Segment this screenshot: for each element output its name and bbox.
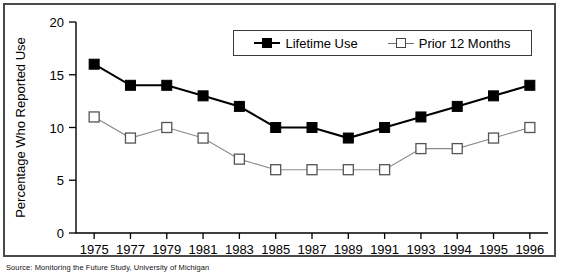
data-point-marker (416, 144, 426, 154)
y-tick-label: 0 (57, 226, 64, 241)
data-point-marker (525, 80, 535, 90)
data-point-marker (125, 133, 135, 143)
x-tick-label: 1989 (334, 242, 363, 255)
x-tick-label: 1996 (515, 242, 544, 255)
legend-item-prior-12-months: Prior 12 Months (388, 36, 511, 51)
data-point-marker (416, 112, 426, 122)
x-tick-label: 1995 (479, 242, 508, 255)
data-point-marker (343, 165, 353, 175)
data-point-marker (380, 165, 390, 175)
y-tick-label: 20 (50, 15, 64, 30)
chart-figure: 05101520Percentage Who Reported Use19751… (0, 0, 561, 277)
data-point-marker (489, 91, 499, 101)
data-point-marker (380, 123, 390, 133)
data-point-marker (489, 133, 499, 143)
x-tick-label: 1981 (189, 242, 218, 255)
y-tick-label: 15 (50, 68, 64, 83)
y-axis-label: Percentage Who Reported Use (13, 37, 28, 218)
legend-label-lifetime-use: Lifetime Use (285, 36, 357, 51)
data-point-marker (343, 133, 353, 143)
x-tick-label: 1985 (261, 242, 290, 255)
data-point-marker (271, 123, 281, 133)
x-tick-label: 1983 (225, 242, 254, 255)
legend-label-prior-12-months: Prior 12 Months (419, 36, 511, 51)
source-note: Source: Monitoring the Future Study, Uni… (6, 263, 209, 272)
data-point-marker (271, 165, 281, 175)
data-point-marker (89, 59, 99, 69)
data-point-marker (452, 144, 462, 154)
x-tick-label: 1987 (298, 242, 327, 255)
y-tick-label: 10 (50, 121, 64, 136)
data-point-marker (162, 80, 172, 90)
y-tick-label: 5 (57, 173, 64, 188)
x-tick-label: 1979 (152, 242, 181, 255)
x-tick-label: 1977 (116, 242, 145, 255)
data-point-marker (198, 133, 208, 143)
data-point-marker (125, 80, 135, 90)
filled-square-marker-icon (254, 37, 280, 49)
data-point-marker (162, 123, 172, 133)
legend-item-lifetime-use: Lifetime Use (254, 36, 357, 51)
data-point-marker (307, 165, 317, 175)
x-tick-label: 1994 (443, 242, 472, 255)
data-point-marker (307, 123, 317, 133)
chart-legend: Lifetime Use Prior 12 Months (233, 30, 532, 56)
x-tick-label: 1991 (370, 242, 399, 255)
data-point-marker (234, 154, 244, 164)
data-point-marker (452, 101, 462, 111)
data-point-marker (89, 112, 99, 122)
x-tick-label: 1975 (80, 242, 109, 255)
data-point-marker (198, 91, 208, 101)
open-square-marker-icon (388, 37, 414, 49)
x-tick-label: 1993 (406, 242, 435, 255)
data-point-marker (234, 101, 244, 111)
data-point-marker (525, 123, 535, 133)
